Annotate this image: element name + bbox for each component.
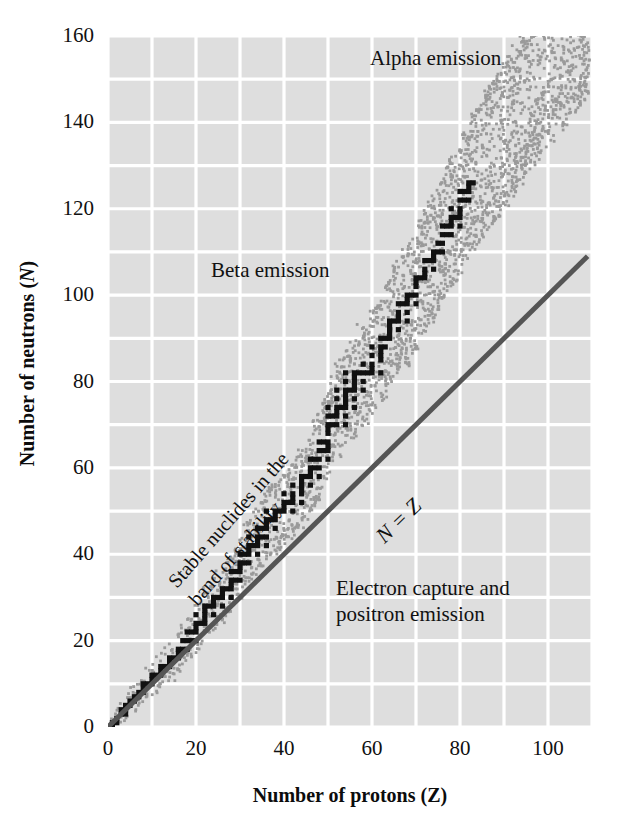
x-axis-title-symbol: Z	[427, 784, 440, 806]
annotation-electron-capture: Electron capture and positron emission	[336, 576, 510, 627]
x-axis-title: Number of protons (Z)	[108, 784, 592, 807]
y-tick-20: 20	[8, 628, 94, 653]
x-tick-60: 60	[342, 736, 402, 761]
nuclide-chart-figure: Alpha emission Beta emission Stable nucl…	[0, 0, 621, 821]
annotation-alpha-emission: Alpha emission	[370, 46, 501, 72]
x-tick-80: 80	[430, 736, 490, 761]
x-tick-20: 20	[166, 736, 226, 761]
y-tick-160: 160	[8, 23, 94, 48]
x-tick-100: 100	[518, 736, 578, 761]
annotation-electron-capture-line1: Electron capture and	[336, 576, 510, 602]
x-axis-title-text: Number of protons	[253, 784, 416, 806]
plot-area: Alpha emission Beta emission Stable nucl…	[108, 36, 592, 727]
y-axis-title-text: Number of neutrons	[16, 294, 38, 467]
y-axis-title: Number of neutrons (N)	[16, 204, 39, 524]
annotation-electron-capture-line2: positron emission	[336, 602, 510, 628]
x-tick-0: 0	[78, 736, 138, 761]
y-axis-title-symbol: N	[16, 267, 38, 281]
x-tick-40: 40	[254, 736, 314, 761]
annotation-beta-emission: Beta emission	[211, 258, 329, 284]
y-tick-40: 40	[8, 541, 94, 566]
y-tick-140: 140	[8, 109, 94, 134]
